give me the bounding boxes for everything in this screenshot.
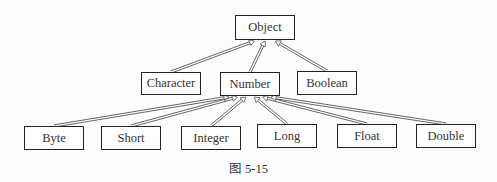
node-double: Double: [416, 124, 476, 148]
node-integer: Integer: [181, 126, 241, 150]
node-character: Character: [141, 72, 201, 95]
node-boolean: Boolean: [297, 71, 357, 95]
node-number: Number: [220, 72, 280, 96]
node-long: Long: [257, 124, 317, 148]
node-float: Float: [337, 124, 397, 148]
node-object: Object: [235, 15, 295, 40]
diagram-canvas: Object Character Number Boolean Byte Sho…: [0, 0, 497, 182]
figure-caption: 图 5-15: [0, 158, 497, 177]
node-short: Short: [101, 126, 161, 150]
node-byte: Byte: [24, 126, 84, 150]
